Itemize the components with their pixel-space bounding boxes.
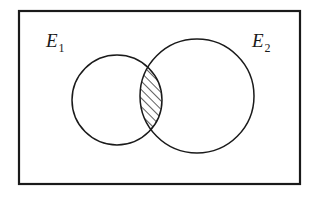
set-label-e1-base: E [45, 30, 58, 51]
set-label-e2-subscript: 2 [265, 41, 271, 55]
set-label-e2-base: E [251, 30, 264, 51]
venn-diagram-figure: E1 E2 [0, 0, 319, 198]
set-label-e1-subscript: 1 [59, 41, 65, 55]
venn-diagram-canvas: E1 E2 [0, 0, 319, 198]
